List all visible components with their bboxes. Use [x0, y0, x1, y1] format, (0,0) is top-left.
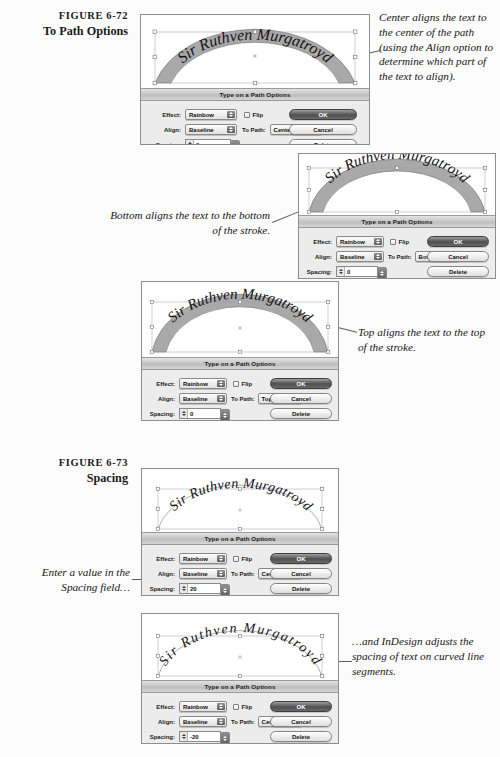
spacing-dropdown-icon[interactable]	[220, 584, 230, 596]
effect-value: Rainbow	[186, 112, 214, 118]
dialog-title: Type on a Path Options	[142, 680, 338, 693]
book-page: FIGURE 6-72 To Path Options Center align…	[0, 0, 500, 757]
cancel-button[interactable]: Cancel	[427, 251, 489, 262]
delete-button[interactable]: Delete	[427, 266, 489, 277]
effect-select[interactable]: Rainbow	[336, 236, 384, 247]
chevron-updown-icon	[217, 703, 225, 710]
flip-checkbox[interactable]	[390, 239, 396, 245]
effect-select[interactable]: Rainbow	[185, 109, 237, 120]
align-select[interactable]: Baseline	[185, 124, 237, 135]
align-value: Baseline	[337, 254, 365, 260]
flip-checkbox[interactable]	[233, 556, 239, 562]
ok-button[interactable]: OK	[289, 109, 357, 120]
spacing-dropdown-icon[interactable]	[220, 732, 230, 744]
arc-artwork-top: Sir Ruthven Murgatroyd	[142, 282, 338, 358]
align-select[interactable]: Baseline	[336, 251, 384, 262]
spacing-label: Spacing:	[142, 586, 175, 592]
screenshot-panel-spacing-20: Sir Ruthven Murgatroyd Type on a Path Op…	[141, 468, 339, 596]
type-on-path-dialog-spacing-20: Type on a Path Options Effect: Rainbow F…	[142, 532, 338, 595]
to-path-label: To Path:	[231, 396, 255, 402]
flip-label: Flip	[242, 704, 253, 710]
delete-button[interactable]: Delete	[289, 139, 357, 145]
to-path-label: To Path:	[242, 127, 266, 133]
align-value: Baseline	[180, 396, 208, 402]
to-path-label: To Path:	[231, 571, 255, 577]
flip-checkbox[interactable]	[233, 381, 239, 387]
spacing-input[interactable]: -20	[179, 731, 221, 742]
svg-text:Sir Ruthven Murgatroyd: Sir Ruthven Murgatroyd	[156, 620, 325, 668]
spacing-dropdown-icon[interactable]	[230, 140, 240, 145]
indesign-canvas-spacing-20: Sir Ruthven Murgatroyd	[142, 469, 338, 533]
type-on-path-dialog-top: Type on a Path Options Effect: Rainbow F…	[142, 357, 338, 420]
chevron-updown-icon	[217, 555, 225, 562]
dialog-title: Type on a Path Options	[141, 88, 369, 101]
arc-artwork-bottom: Sir Ruthven Murgatroyd	[299, 154, 495, 217]
effect-label: Effect:	[147, 381, 175, 387]
align-value: Baseline	[180, 719, 208, 725]
effect-value: Rainbow	[180, 556, 208, 562]
spacing-dropdown-icon[interactable]	[220, 409, 230, 421]
spacing-dropdown-icon[interactable]	[377, 267, 387, 279]
delete-button[interactable]: Delete	[270, 583, 332, 594]
ok-button[interactable]: OK	[270, 378, 332, 389]
spacing-input[interactable]: 0	[185, 139, 231, 145]
figure-title: To Path Options	[18, 24, 128, 39]
spacing-stepper-icon[interactable]	[180, 409, 188, 418]
indesign-canvas-top: Sir Ruthven Murgatroyd	[142, 282, 338, 358]
cancel-button[interactable]: Cancel	[270, 568, 332, 579]
screenshot-panel-bottom: Sir Ruthven Murgatroyd Type on a Path Op…	[298, 153, 496, 279]
align-label: Align:	[147, 571, 175, 577]
spacing-label: Spacing:	[144, 142, 181, 146]
align-label: Align:	[304, 254, 332, 260]
type-on-path-dialog-bottom: Type on a Path Options Effect: Rainbow F…	[299, 215, 495, 278]
dialog-title: Type on a Path Options	[142, 532, 338, 545]
spacing-value: 0	[194, 142, 199, 146]
flip-label: Flip	[242, 381, 253, 387]
effect-select[interactable]: Rainbow	[179, 701, 227, 712]
delete-button[interactable]: Delete	[270, 731, 332, 742]
figure-title: Spacing	[18, 471, 128, 486]
svg-text:Sir Ruthven Murgatroyd: Sir Ruthven Murgatroyd	[174, 26, 337, 67]
spacing-input[interactable]: 0	[179, 408, 221, 419]
indesign-canvas-bottom: Sir Ruthven Murgatroyd	[299, 154, 495, 217]
flip-label: Flip	[399, 239, 410, 245]
flip-checkbox[interactable]	[244, 112, 250, 118]
spacing-stepper-icon[interactable]	[337, 267, 345, 276]
spacing-stepper-icon[interactable]	[180, 584, 188, 593]
ok-button[interactable]: OK	[270, 553, 332, 564]
effect-select[interactable]: Rainbow	[179, 553, 227, 564]
effect-select[interactable]: Rainbow	[179, 378, 227, 389]
chevron-updown-icon	[217, 718, 225, 725]
spacing-input[interactable]: 0	[336, 266, 378, 277]
ok-button[interactable]: OK	[427, 236, 489, 247]
annotation-top-aligns: Top aligns the text to the top of the st…	[358, 325, 490, 355]
cancel-button[interactable]: Cancel	[270, 393, 332, 404]
effect-label: Effect:	[147, 556, 175, 562]
spacing-stepper-icon[interactable]	[186, 140, 194, 145]
type-on-path-dialog-center: Type on a Path Options Effect: Rainbow F…	[141, 88, 369, 144]
annotation-bottom-aligns: Bottom aligns the text to the bottom of …	[105, 208, 270, 238]
ok-button[interactable]: OK	[270, 701, 332, 712]
figure-caption-6-72: FIGURE 6-72 To Path Options	[18, 10, 128, 39]
align-select[interactable]: Baseline	[179, 716, 227, 727]
cancel-button[interactable]: Cancel	[270, 716, 332, 727]
svg-text:Sir Ruthven Murgatroyd: Sir Ruthven Murgatroyd	[166, 475, 316, 514]
chevron-updown-icon	[374, 238, 382, 245]
effect-label: Effect:	[147, 704, 175, 710]
delete-button[interactable]: Delete	[270, 408, 332, 419]
arc-artwork-spacing-minus-20: Sir Ruthven Murgatroyd	[142, 614, 338, 681]
effect-value: Rainbow	[180, 381, 208, 387]
align-select[interactable]: Baseline	[179, 568, 227, 579]
spacing-input[interactable]: 20	[179, 583, 221, 594]
align-select[interactable]: Baseline	[179, 393, 227, 404]
effect-value: Rainbow	[180, 704, 208, 710]
spacing-value: 0	[345, 269, 350, 275]
align-value: Baseline	[180, 571, 208, 577]
annotation-enter-spacing-value: Enter a value in the Spacing field…	[8, 565, 130, 595]
chevron-updown-icon	[217, 570, 225, 577]
spacing-value: 0	[188, 411, 193, 417]
cancel-button[interactable]: Cancel	[289, 124, 357, 135]
type-on-path-dialog-spacing-minus-20: Type on a Path Options Effect: Rainbow F…	[142, 680, 338, 743]
flip-checkbox[interactable]	[233, 704, 239, 710]
spacing-stepper-icon[interactable]	[180, 732, 188, 741]
